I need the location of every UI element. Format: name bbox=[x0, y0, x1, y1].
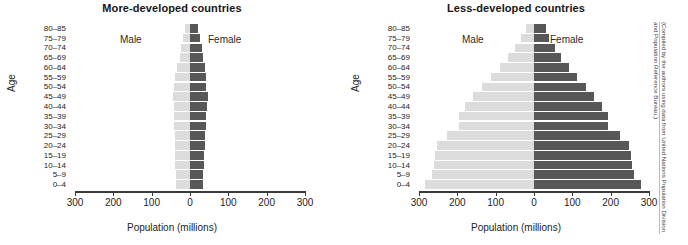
pyramid-row bbox=[75, 53, 305, 62]
bar-female bbox=[190, 112, 206, 121]
age-tick-label: 80–85 bbox=[388, 25, 410, 33]
bar-female bbox=[190, 53, 203, 62]
age-tick-label: 30–34 bbox=[388, 123, 410, 131]
bar-male bbox=[174, 83, 190, 92]
legend-female-right: Female bbox=[550, 34, 583, 45]
bar-male bbox=[183, 34, 190, 43]
bar-female bbox=[190, 92, 208, 101]
age-tick-label: 20–24 bbox=[44, 142, 66, 150]
age-tick-label: 50–54 bbox=[44, 83, 66, 91]
bar-male bbox=[175, 161, 190, 170]
bar-female bbox=[534, 92, 594, 101]
x-axis-label-left: Population (millions) bbox=[0, 222, 344, 233]
bar-male bbox=[425, 180, 534, 189]
bar-female bbox=[190, 131, 205, 140]
bar-male bbox=[173, 92, 190, 101]
age-tick-label: 40–44 bbox=[388, 103, 410, 111]
x-axis-tick bbox=[534, 191, 535, 196]
x-axis-tick bbox=[190, 191, 191, 196]
y-axis-label-right: Age bbox=[350, 74, 361, 92]
bar-male bbox=[175, 141, 190, 150]
chart-title-less-developed: Less-developed countries bbox=[344, 2, 688, 14]
chart-panel-less-developed: Less-developed countries Age 80–8575–797… bbox=[344, 0, 688, 245]
bar-female bbox=[190, 122, 206, 131]
age-tick-label: 20–24 bbox=[388, 142, 410, 150]
age-tick-label: 45–49 bbox=[44, 93, 66, 101]
bar-female bbox=[190, 44, 202, 53]
pyramid-row bbox=[75, 131, 305, 140]
pyramid-row bbox=[75, 161, 305, 170]
pyramid-row bbox=[419, 161, 649, 170]
bar-male bbox=[174, 102, 190, 111]
x-axis-tick bbox=[267, 191, 268, 196]
age-tick-label: 5–9 bbox=[397, 171, 410, 179]
bar-female bbox=[534, 161, 632, 170]
x-axis-tick bbox=[305, 191, 306, 196]
pyramid-row bbox=[419, 53, 649, 62]
x-axis-tick bbox=[419, 191, 420, 196]
age-tick-label: 15–19 bbox=[388, 152, 410, 160]
pyramid-row bbox=[419, 151, 649, 160]
bar-male bbox=[176, 170, 190, 179]
bar-male bbox=[508, 53, 534, 62]
x-axis-tick bbox=[649, 191, 650, 196]
pyramid-row bbox=[419, 92, 649, 101]
pyramid-row bbox=[75, 73, 305, 82]
bar-male bbox=[447, 131, 534, 140]
age-tick-label: 50–54 bbox=[388, 83, 410, 91]
pyramid-row bbox=[75, 112, 305, 121]
plot-area-left bbox=[75, 24, 305, 190]
x-axis-tick-label: 300 bbox=[411, 197, 428, 208]
pyramid-row bbox=[419, 73, 649, 82]
age-tick-label: 75–79 bbox=[388, 35, 410, 43]
bar-male bbox=[491, 73, 534, 82]
pyramid-row bbox=[75, 34, 305, 43]
age-tick-label: 75–79 bbox=[44, 35, 66, 43]
age-tick-label: 0–4 bbox=[397, 181, 410, 189]
bar-female bbox=[534, 73, 577, 82]
bar-male bbox=[459, 112, 534, 121]
bar-female bbox=[534, 131, 620, 140]
pyramid-row bbox=[75, 63, 305, 72]
age-tick-label: 80–85 bbox=[44, 25, 66, 33]
bar-female bbox=[534, 83, 586, 92]
bar-male bbox=[432, 170, 534, 179]
age-tick-label: 10–14 bbox=[388, 162, 410, 170]
bar-female bbox=[534, 141, 629, 150]
pyramid-row bbox=[75, 102, 305, 111]
bar-male bbox=[473, 92, 534, 101]
bar-female bbox=[534, 34, 549, 43]
age-tick-label: 10–14 bbox=[44, 162, 66, 170]
bar-female bbox=[190, 63, 205, 72]
pyramid-row bbox=[75, 141, 305, 150]
plot-area-right bbox=[419, 24, 649, 190]
pyramid-row bbox=[75, 92, 305, 101]
x-axis-tick-label: 200 bbox=[258, 197, 275, 208]
bar-male bbox=[174, 122, 190, 131]
pyramid-row bbox=[419, 170, 649, 179]
bar-female bbox=[190, 34, 200, 43]
legend-female-left: Female bbox=[208, 34, 241, 45]
bar-female bbox=[190, 161, 204, 170]
age-tick-label: 55–59 bbox=[44, 74, 66, 82]
bar-female bbox=[190, 141, 205, 150]
age-tick-label: 55–59 bbox=[388, 74, 410, 82]
x-axis-tick-label: 100 bbox=[220, 197, 237, 208]
pyramid-row bbox=[419, 24, 649, 33]
bar-female bbox=[190, 102, 207, 111]
age-tick-label: 25–29 bbox=[388, 132, 410, 140]
pyramid-row bbox=[75, 180, 305, 189]
bar-female bbox=[190, 83, 206, 92]
pyramid-row bbox=[419, 63, 649, 72]
bar-male bbox=[176, 180, 190, 189]
age-tick-label: 30–34 bbox=[44, 123, 66, 131]
bar-female bbox=[190, 24, 198, 33]
pyramid-row bbox=[75, 170, 305, 179]
x-axis-tick-label: 200 bbox=[449, 197, 466, 208]
bar-female bbox=[534, 102, 602, 111]
age-tick-label: 65–69 bbox=[388, 54, 410, 62]
pyramid-row bbox=[419, 112, 649, 121]
bar-male bbox=[177, 63, 190, 72]
x-axis-tick bbox=[572, 191, 573, 196]
bar-female bbox=[534, 180, 641, 189]
